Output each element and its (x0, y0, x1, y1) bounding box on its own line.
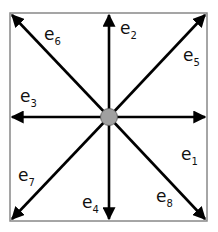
label-e2: e2 (120, 18, 137, 41)
label-e5: e5 (183, 45, 200, 68)
center-node (101, 109, 118, 126)
label-e7: e7 (18, 165, 35, 188)
label-e3: e3 (20, 86, 37, 109)
label-e1: e1 (181, 144, 198, 167)
label-e6: e6 (44, 24, 61, 47)
label-e4: e4 (82, 192, 99, 215)
lattice-diagram: e1 e2 e3 e4 e5 e6 e7 e8 (0, 0, 218, 232)
label-e8: e8 (156, 186, 173, 209)
